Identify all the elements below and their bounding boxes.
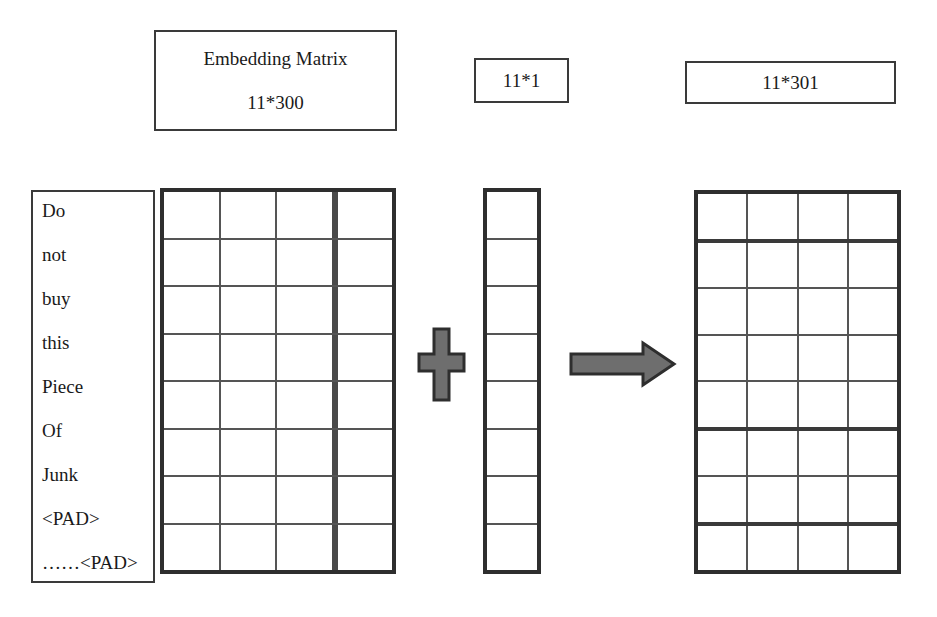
matrix-cell [487,240,537,286]
table-row [698,336,897,383]
matrix-cell [164,430,221,476]
matrix-cell [698,243,748,288]
table-row [164,525,392,571]
matrix-cell [799,289,849,334]
right-arrow-icon [569,340,677,388]
matrix-cell [164,287,221,333]
matrix-cell [277,525,338,571]
matrix-cell [748,431,798,476]
matrix-cell [277,287,338,333]
embedding-matrix-grid [160,188,396,574]
matrix-cell [164,525,221,571]
embedding-label-dimensions: 11*300 [247,88,303,117]
list-item: Piece [33,377,153,396]
matrix-cell [748,526,798,571]
matrix-cell [487,525,537,571]
matrix-cell [487,192,537,238]
output-matrix-grid [694,190,901,574]
table-row [164,335,392,383]
list-item: Of [33,421,153,440]
table-row [487,192,537,240]
matrix-cell [748,477,798,522]
matrix-cell [277,382,338,428]
matrix-cell [799,431,849,476]
matrix-cell [221,192,278,238]
table-row [487,525,537,571]
list-item: not [33,245,153,264]
matrix-cell [164,477,221,523]
matrix-cell [849,526,897,571]
table-row [698,194,897,243]
matrix-cell [164,240,221,286]
matrix-cell [698,431,748,476]
matrix-cell [698,289,748,334]
matrix-cell [748,194,798,239]
table-row [698,243,897,290]
list-item: Junk [33,465,153,484]
table-row [164,477,392,525]
matrix-cell [799,477,849,522]
matrix-cell [487,382,537,428]
matrix-cell [221,240,278,286]
matrix-cell [748,336,798,381]
matrix-cell [748,289,798,334]
feature-column-label-box: 11*1 [474,58,569,103]
matrix-cell [338,382,393,428]
matrix-cell [338,525,393,571]
matrix-cell [221,525,278,571]
matrix-cell [799,194,849,239]
matrix-cell [277,335,338,381]
table-row [487,287,537,335]
matrix-cell [338,240,393,286]
matrix-cell [221,430,278,476]
token-list-box: Do not buy this Piece Of Junk <PAD> ……<P… [31,190,155,583]
table-row [487,335,537,383]
table-row [487,382,537,430]
matrix-cell [164,335,221,381]
matrix-cell [338,287,393,333]
matrix-cell [221,287,278,333]
list-item: this [33,333,153,352]
list-item: <PAD> [33,509,153,528]
table-row [164,192,392,240]
output-matrix-label-box: 11*301 [685,61,896,104]
matrix-cell [338,430,393,476]
matrix-cell [799,336,849,381]
matrix-cell [487,335,537,381]
matrix-cell [698,336,748,381]
embedding-label-title: Embedding Matrix [203,44,347,73]
matrix-cell [277,477,338,523]
table-row [164,430,392,478]
matrix-cell [849,289,897,334]
matrix-cell [799,526,849,571]
matrix-cell [849,243,897,288]
table-row [698,526,897,571]
output-label-dimensions: 11*301 [762,68,818,97]
matrix-cell [849,477,897,522]
matrix-cell [748,382,798,427]
table-row [487,477,537,525]
matrix-cell [164,192,221,238]
matrix-cell [221,335,278,381]
matrix-cell [849,382,897,427]
list-item: buy [33,289,153,308]
matrix-cell [338,477,393,523]
matrix-cell [164,382,221,428]
matrix-cell [487,287,537,333]
matrix-cell [799,382,849,427]
matrix-cell [277,430,338,476]
matrix-cell [338,192,393,238]
embedding-matrix-label-box: Embedding Matrix 11*300 [154,30,397,131]
matrix-cell [748,243,798,288]
table-row [698,289,897,336]
plus-operator [417,327,466,402]
table-row [164,240,392,288]
matrix-cell [849,194,897,239]
diagram-canvas: Embedding Matrix 11*300 11*1 11*301 Do n… [0,0,937,617]
matrix-cell [799,243,849,288]
table-row [487,240,537,288]
list-item: ……<PAD> [33,553,153,572]
feature-label-dimensions: 11*1 [503,66,540,95]
table-row [698,431,897,478]
table-row [164,382,392,430]
